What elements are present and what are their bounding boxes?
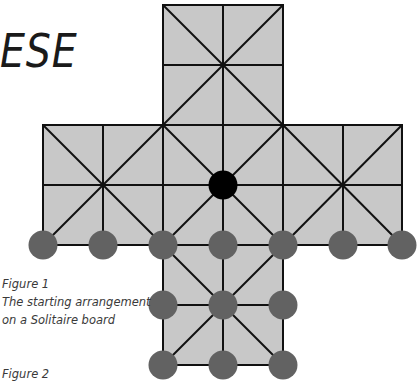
figure-1-label: Figure 1	[2, 275, 151, 293]
figure-2-label: Figure 2	[2, 365, 49, 383]
peg-grey	[29, 231, 58, 260]
peg-grey	[209, 291, 238, 320]
figure-1-caption: Figure 1 The starting arrangement on a S…	[2, 275, 151, 329]
peg-grey	[329, 231, 358, 260]
peg-grey	[149, 231, 178, 260]
peg-black	[209, 171, 238, 200]
peg-grey	[269, 291, 298, 320]
peg-grey	[269, 231, 298, 260]
peg-grey	[269, 351, 298, 380]
figure-2-caption: Figure 2	[2, 365, 49, 383]
peg-grey	[388, 231, 417, 260]
peg-grey	[149, 351, 178, 380]
figure-1-caption-line-2: on a Solitaire board	[2, 311, 151, 329]
peg-grey	[209, 351, 238, 380]
peg-grey	[89, 231, 118, 260]
peg-grey	[149, 291, 178, 320]
figure-1-caption-line-1: The starting arrangement	[2, 293, 151, 311]
peg-grey	[209, 231, 238, 260]
